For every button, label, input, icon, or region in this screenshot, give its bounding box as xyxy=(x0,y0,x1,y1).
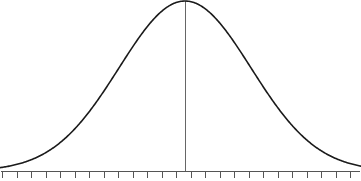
plot-background xyxy=(0,0,361,181)
normal-distribution-figure xyxy=(0,0,361,181)
bell-curve-plot xyxy=(0,0,361,181)
